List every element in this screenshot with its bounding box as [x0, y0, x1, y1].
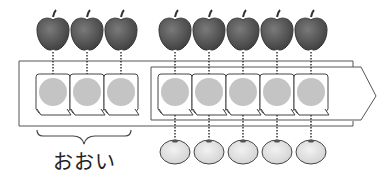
counter-block — [70, 74, 105, 115]
orange-icon — [160, 140, 190, 165]
orange-icon — [262, 140, 292, 165]
brace — [37, 130, 131, 144]
oranges — [160, 140, 326, 165]
counter-block — [104, 74, 139, 115]
more-label: おおい — [44, 146, 124, 175]
apple-icon — [261, 10, 293, 50]
apple-icon — [227, 10, 259, 50]
counter-block — [260, 74, 295, 115]
apple-icon — [37, 10, 69, 50]
counter-block — [158, 74, 193, 115]
apple-icon — [159, 10, 191, 50]
apple-icon — [71, 10, 103, 50]
counter-block — [226, 74, 261, 115]
counters — [36, 74, 329, 115]
apple-icon — [295, 10, 327, 50]
apple-icon — [193, 10, 225, 50]
orange-icon — [194, 140, 224, 165]
apples — [37, 10, 327, 50]
orange-icon — [228, 140, 258, 165]
counter-block — [294, 74, 329, 115]
orange-icon — [296, 140, 326, 165]
counter-block — [36, 74, 71, 115]
counter-block — [192, 74, 227, 115]
apple-icon — [105, 10, 137, 50]
